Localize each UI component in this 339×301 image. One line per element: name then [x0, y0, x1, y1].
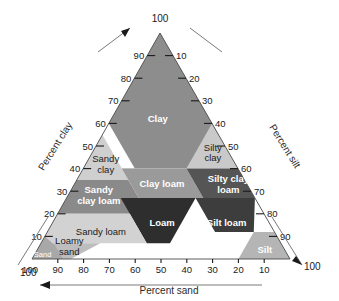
- silt-tick-label-30: 30: [202, 95, 213, 106]
- region-label-line: Clay: [148, 113, 169, 124]
- clay-tick-label-40: 40: [70, 163, 81, 174]
- region-label-sand: Sand: [34, 250, 52, 259]
- sand-tick-label-10: 10: [259, 264, 270, 275]
- region-label-clay: Clay: [148, 113, 169, 124]
- bottom-left-value-label: 100: [20, 267, 37, 278]
- clay-tick-label-20: 20: [44, 208, 55, 219]
- region-label-line: sand: [59, 246, 80, 257]
- region-label-line: Sand: [34, 250, 52, 259]
- region-label-line: Sandy: [85, 184, 114, 195]
- clay-tick-label-50: 50: [82, 141, 93, 152]
- sand-tick-label-80: 80: [78, 264, 89, 275]
- sand-tick-label-90: 90: [53, 264, 64, 275]
- region-label-line: clay: [204, 152, 221, 163]
- sand-tick-label-50: 50: [156, 264, 167, 275]
- region-label-loamy-sand: Loamysand: [55, 235, 84, 257]
- region-label-line: Loamy: [55, 235, 84, 246]
- soil-texture-triangle-chart: 1020304050607080901020304050607080909080…: [0, 0, 339, 301]
- region-label-clay-loam: Clay loam: [140, 178, 185, 189]
- clay-tick-label-70: 70: [108, 95, 119, 106]
- region-label-line: Silt: [257, 244, 273, 255]
- silt-tick-label-70: 70: [254, 186, 265, 197]
- silt-tick-label-10: 10: [176, 50, 187, 61]
- clay-tick-label-80: 80: [121, 73, 132, 84]
- region-label-loam: Loam: [149, 217, 174, 228]
- region-label-line: Silty clay: [208, 173, 250, 184]
- sand-tick-label-20: 20: [233, 264, 244, 275]
- region-label-line: Sandy: [92, 153, 119, 164]
- sand-axis-title: Percent sand: [140, 285, 199, 296]
- region-label-line: Silt loam: [207, 217, 247, 228]
- apex-value-label: 100: [152, 13, 169, 24]
- clay-tick-label-30: 30: [57, 186, 68, 197]
- clay-tick-label-90: 90: [134, 50, 145, 61]
- region-label-line: loam: [217, 184, 239, 195]
- silt-tick-label-20: 20: [189, 73, 200, 84]
- region-label-silty-clay: Siltyclay: [204, 142, 222, 164]
- ternary-diagram-svg: 1020304050607080901020304050607080909080…: [0, 0, 339, 301]
- silt-tick-label-50: 50: [228, 141, 239, 152]
- region-label-silt-loam: Silt loam: [207, 217, 247, 228]
- clay-tick-label-10: 10: [31, 231, 42, 242]
- region-label-line: clay loam: [77, 195, 120, 206]
- clay-tick-label-60: 60: [95, 118, 106, 129]
- sand-tick-label-30: 30: [207, 264, 218, 275]
- sand-tick-label-40: 40: [182, 264, 193, 275]
- region-label-line: Loam: [149, 217, 174, 228]
- silt-tick-label-40: 40: [215, 118, 226, 129]
- sand-tick-label-70: 70: [104, 264, 115, 275]
- bottom-right-value-label: 100: [304, 261, 321, 272]
- region-label-line: Clay loam: [140, 178, 185, 189]
- region-label-line: Silty: [204, 142, 222, 153]
- region-label-silt: Silt: [257, 244, 273, 255]
- region-label-line: clay: [97, 164, 114, 175]
- sand-tick-label-60: 60: [130, 264, 141, 275]
